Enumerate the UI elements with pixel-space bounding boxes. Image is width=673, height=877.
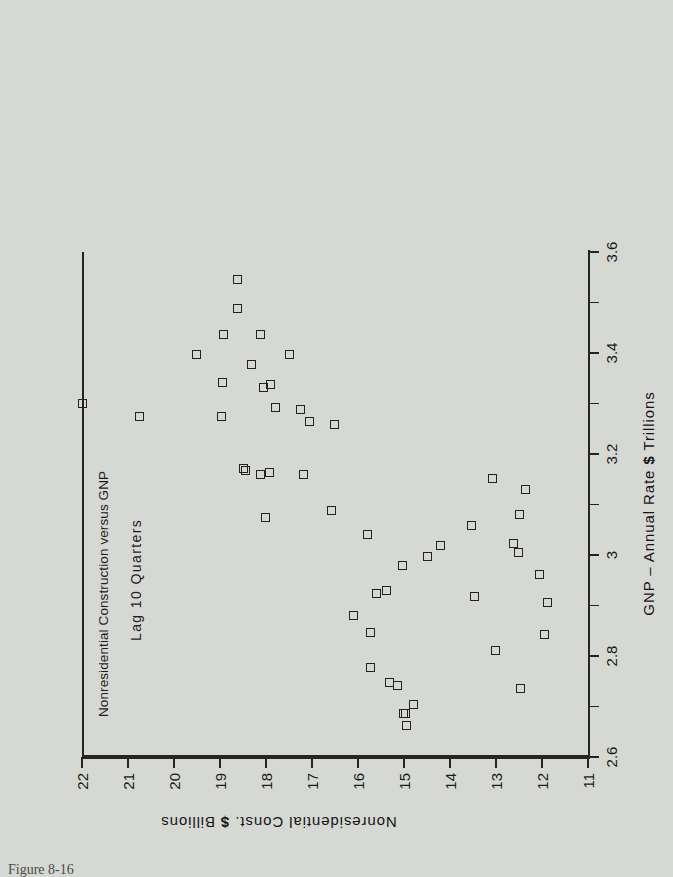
data-point — [247, 360, 256, 369]
rotated-figure-wrapper: Nonresidential Construction versus GNP L… — [0, 0, 673, 877]
x-tick-label: 2.8 — [603, 646, 620, 667]
x-tick-minor — [588, 302, 599, 304]
y-tick-label: 17 — [304, 773, 321, 809]
x-tick-label: 3 — [603, 551, 620, 559]
x-tick-label: 3.4 — [603, 343, 620, 364]
y-tick-major — [81, 757, 83, 768]
y-tick-major — [587, 757, 589, 768]
x-axis-title: GNP – Annual Rate $ Trillions — [640, 250, 657, 757]
data-point — [259, 383, 268, 392]
x-tick-label: 3.2 — [603, 444, 620, 465]
data-point — [256, 330, 265, 339]
y-tick-major — [541, 757, 543, 768]
data-point — [382, 586, 391, 595]
data-point — [409, 701, 418, 710]
y-tick-major — [449, 757, 451, 768]
y-tick-label: 20 — [166, 773, 183, 809]
x-tick-major — [588, 352, 599, 354]
data-point — [349, 611, 358, 620]
x-tick-major — [588, 453, 599, 455]
plot-area — [82, 252, 588, 757]
y-axis-title: Nonresidential Const. $ Billions — [69, 814, 489, 831]
x-tick-minor — [588, 706, 599, 708]
y-tick-label: 16 — [350, 773, 367, 809]
data-point — [514, 548, 523, 557]
data-point — [521, 485, 530, 494]
data-point — [217, 412, 226, 421]
data-point — [327, 506, 336, 515]
x-axis-title-part3: Trillions — [640, 391, 657, 450]
x-tick-major — [588, 655, 599, 657]
y-tick-major — [219, 757, 221, 768]
data-point — [192, 350, 201, 359]
data-point — [402, 721, 411, 730]
data-point — [366, 628, 375, 637]
data-point — [488, 474, 497, 483]
x-axis-title-part2: Annual Rate — [640, 470, 657, 562]
data-point — [219, 330, 228, 339]
data-point — [436, 541, 445, 550]
x-tick-major — [588, 251, 599, 253]
data-point — [330, 420, 339, 429]
data-point — [218, 378, 227, 387]
y-tick-label: 15 — [396, 773, 413, 809]
y-tick-major — [127, 757, 129, 768]
data-point — [423, 552, 432, 561]
x-tick-label: 3.6 — [603, 242, 620, 263]
data-point — [261, 513, 270, 522]
x-tick-minor — [588, 403, 599, 405]
data-point — [543, 598, 552, 607]
data-point — [535, 570, 544, 579]
data-point — [399, 709, 408, 718]
data-point — [256, 470, 265, 479]
y-tick-label: 19 — [212, 773, 229, 809]
y-tick-label: 12 — [534, 773, 551, 809]
data-point — [540, 630, 549, 639]
data-point — [516, 684, 525, 693]
y-axis-title-dollar: $ — [220, 814, 229, 831]
data-point — [398, 561, 407, 570]
data-point — [515, 510, 524, 519]
y-tick-major — [357, 757, 359, 768]
y-axis-title-part1: Nonresidential Const. — [234, 814, 396, 831]
x-tick-label: 2.6 — [603, 747, 620, 768]
y-tick-major — [265, 757, 267, 768]
x-axis-title-dollar: $ — [640, 455, 657, 464]
data-point — [233, 275, 242, 284]
data-point — [78, 399, 87, 408]
data-point — [509, 539, 518, 548]
figure-page: Nonresidential Construction versus GNP L… — [0, 0, 673, 877]
y-tick-major — [311, 757, 313, 768]
data-point — [393, 681, 402, 690]
y-axis-title-part2: Billions — [160, 814, 215, 831]
x-tick-major — [588, 554, 599, 556]
x-tick-major — [588, 756, 599, 758]
data-point — [372, 589, 381, 598]
y-tick-label: 14 — [442, 773, 459, 809]
figure-caption: Figure 8-16 — [8, 862, 74, 877]
data-point — [241, 466, 250, 475]
data-point — [233, 304, 242, 313]
y-tick-label: 18 — [258, 773, 275, 809]
x-axis-title-part1: GNP — [640, 581, 657, 616]
y-tick-label: 13 — [488, 773, 505, 809]
y-axis-line — [82, 757, 590, 759]
y-tick-label: 21 — [120, 773, 137, 809]
data-point — [299, 470, 308, 479]
x-axis-title-dash: – — [640, 566, 657, 575]
data-point — [467, 521, 476, 530]
y-tick-label: 11 — [580, 773, 597, 809]
data-point — [305, 417, 314, 426]
scatter-figure: Nonresidential Construction versus GNP L… — [0, 0, 673, 877]
y-tick-major — [495, 757, 497, 768]
data-point — [271, 403, 280, 412]
y-tick-major — [403, 757, 405, 768]
data-point — [491, 646, 500, 655]
y-tick-label: 22 — [74, 773, 91, 809]
data-point — [366, 663, 375, 672]
data-point — [265, 468, 274, 477]
data-point — [470, 592, 479, 601]
data-point — [285, 350, 294, 359]
y-tick-major — [173, 757, 175, 768]
x-tick-minor — [588, 504, 599, 506]
